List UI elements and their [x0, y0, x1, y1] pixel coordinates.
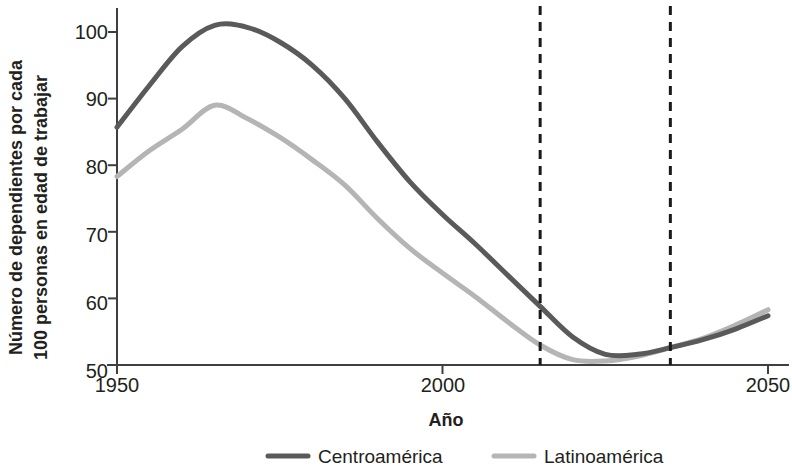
y-tick-label-60: 60 — [86, 292, 108, 314]
legend-label-centroamerica: Centroamérica — [318, 446, 443, 467]
legend-item-latinoamerica: Latinoamérica — [494, 446, 664, 467]
chart-axes — [107, 8, 789, 374]
y-axis-title-line-2: 100 personas en edad de trabajar — [31, 75, 51, 360]
y-tick-label-70: 70 — [86, 224, 108, 246]
y-tick-label-100: 100 — [75, 21, 108, 43]
y-tick-label-90: 90 — [86, 88, 108, 110]
legend-item-centroamerica: Centroamérica — [268, 446, 443, 467]
y-axis-title-line-1: Número de dependientes por cada — [6, 59, 26, 355]
chart-legend: Centroamérica Latinoamérica — [268, 446, 664, 467]
x-tick-label-2050: 2050 — [746, 374, 791, 396]
chart-annotations — [540, 6, 670, 365]
chart-canvas: Número de dependientes por cada 100 pers… — [0, 0, 792, 471]
x-axis-title: Año — [429, 410, 464, 430]
dependency-ratio-line-chart: Número de dependientes por cada 100 pers… — [0, 0, 792, 471]
y-axis-tick-labels: 100 90 80 70 60 50 — [75, 21, 108, 382]
x-tick-label-1950: 1950 — [95, 374, 140, 396]
x-tick-label-2000: 2000 — [421, 374, 466, 396]
y-axis-title: Número de dependientes por cada 100 pers… — [6, 59, 51, 360]
legend-label-latinoamerica: Latinoamérica — [544, 446, 664, 467]
y-tick-label-80: 80 — [86, 156, 108, 178]
x-axis-tick-labels: 1950 2000 2050 — [95, 374, 791, 396]
